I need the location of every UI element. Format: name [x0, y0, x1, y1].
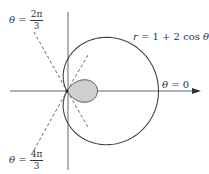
label-theta-0: θ = 0: [162, 80, 189, 90]
axis-arrow-icon: [192, 88, 201, 94]
inner-loop: [67, 80, 98, 103]
ray-2pi-3: [34, 32, 67, 91]
fraction: 4π3: [30, 150, 44, 171]
ray-4pi-3: [34, 91, 67, 150]
fraction: 2π3: [30, 10, 44, 31]
curve-equation-label: r = 1 + 2 cos θ: [133, 32, 209, 42]
label-theta-2pi-3: θ = 2π3: [9, 10, 43, 31]
origin-point: [65, 89, 68, 92]
label-theta-4pi-3: θ = 4π3: [9, 150, 43, 171]
